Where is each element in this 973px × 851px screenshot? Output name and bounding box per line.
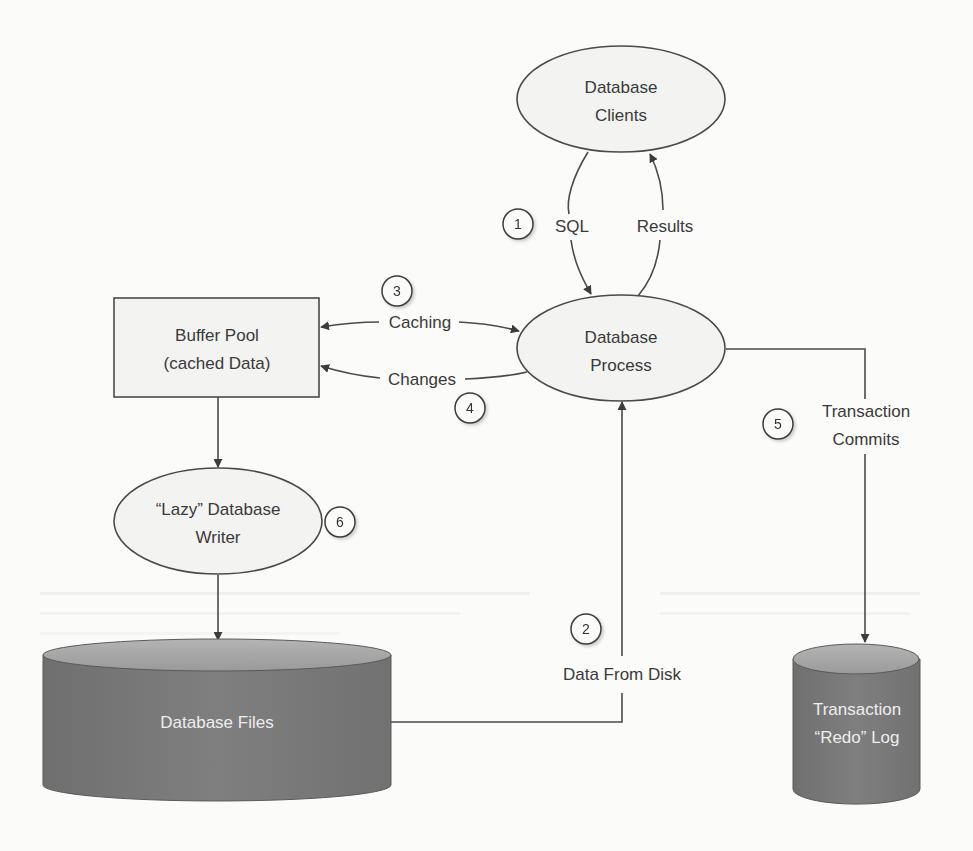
sql-edge-lower — [571, 240, 591, 294]
changes-edge-right — [465, 372, 527, 379]
transaction-commits-edge-upper — [726, 349, 865, 399]
redo-log-label-line1: Transaction — [813, 700, 901, 719]
sql-edge — [568, 152, 588, 214]
buffer-pool-label-line2: (cached Data) — [164, 354, 271, 373]
results-edge-lower — [638, 240, 660, 296]
step-marker-1-number: 1 — [514, 216, 522, 232]
redo-log-cylinder: Transaction “Redo” Log — [793, 644, 920, 804]
changes-edge-left — [321, 366, 380, 378]
step-marker-4: 4 — [455, 393, 485, 423]
changes-label: Changes — [388, 370, 456, 389]
step-marker-3: 3 — [382, 276, 412, 306]
database-architecture-diagram: Database Clients Database Process Buffer… — [0, 0, 973, 851]
results-edge — [650, 154, 663, 210]
database-process-node: Database Process — [517, 295, 725, 401]
buffer-pool-label-line1: Buffer Pool — [175, 326, 259, 345]
data-from-disk-label: Data From Disk — [563, 665, 682, 684]
step-marker-2-number: 2 — [582, 621, 590, 637]
caching-label: Caching — [389, 313, 451, 332]
buffer-pool-node: Buffer Pool (cached Data) — [114, 298, 319, 397]
results-label: Results — [637, 217, 694, 236]
step-marker-6-number: 6 — [336, 514, 344, 530]
database-clients-label-line1: Database — [585, 78, 658, 97]
lazy-writer-label-line2: Writer — [195, 528, 240, 547]
caching-edge-right — [459, 322, 519, 331]
step-marker-3-number: 3 — [393, 283, 401, 299]
step-marker-2: 2 — [571, 614, 601, 644]
data-from-disk-edge-lower — [391, 693, 622, 722]
step-marker-1: 1 — [503, 209, 533, 239]
lazy-database-writer-node: “Lazy” Database Writer — [114, 468, 322, 574]
database-process-label-line1: Database — [585, 328, 658, 347]
step-marker-5-number: 5 — [774, 416, 782, 432]
step-marker-5: 5 — [763, 409, 793, 439]
database-files-cylinder: Database Files — [43, 639, 391, 801]
transaction-commits-label-line1: Transaction — [822, 402, 910, 421]
database-clients-node: Database Clients — [517, 46, 725, 152]
database-files-label: Database Files — [160, 713, 273, 732]
step-marker-6: 6 — [325, 507, 355, 537]
database-clients-label-line2: Clients — [595, 106, 647, 125]
step-marker-4-number: 4 — [466, 400, 474, 416]
lazy-writer-label-line1: “Lazy” Database — [156, 500, 281, 519]
database-process-label-line2: Process — [590, 356, 651, 375]
page-bleed-through — [40, 592, 920, 635]
sql-label: SQL — [555, 217, 589, 236]
transaction-commits-label-line2: Commits — [832, 430, 899, 449]
caching-edge-left — [321, 322, 379, 327]
redo-log-label-line2: “Redo” Log — [814, 728, 899, 747]
